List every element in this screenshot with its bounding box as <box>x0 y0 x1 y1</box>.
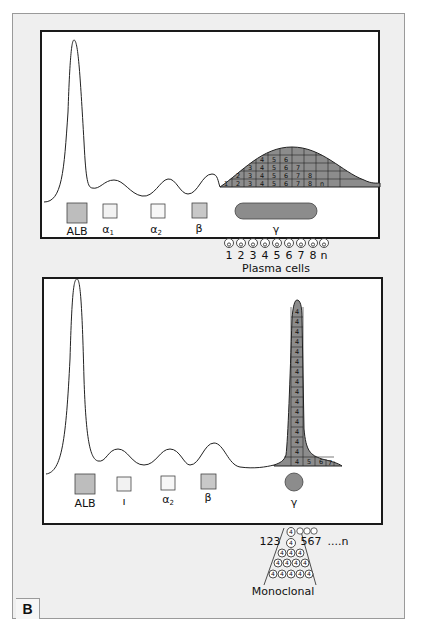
svg-text:7: 7 <box>328 459 332 467</box>
svg-text:4: 4 <box>295 408 299 416</box>
svg-text:1: 1 <box>224 180 228 188</box>
gamma-monoclonal-spike <box>274 300 342 466</box>
svg-text:4: 4 <box>295 318 299 326</box>
alb-label: ALB <box>74 497 95 510</box>
svg-text:4: 4 <box>295 378 299 386</box>
svg-text:4: 4 <box>295 308 299 316</box>
svg-text:4: 4 <box>295 418 299 426</box>
svg-text:4: 4 <box>295 428 299 436</box>
beta-band <box>192 203 207 218</box>
svg-text:6: 6 <box>284 180 288 188</box>
alpha2-band <box>151 204 165 218</box>
svg-text:4: 4 <box>295 338 299 346</box>
alpha2-label: α2 <box>162 493 174 507</box>
svg-text:7: 7 <box>296 180 300 188</box>
alpha1-label: α1 <box>102 223 114 237</box>
alpha1-band <box>103 204 117 218</box>
svg-text:3: 3 <box>248 172 252 180</box>
figure-panel-label: B <box>16 598 40 619</box>
alpha1-label: ı <box>122 495 125 508</box>
alpha2-band <box>161 476 175 490</box>
beta-band <box>201 474 216 489</box>
alb-band <box>67 203 87 223</box>
svg-text:6: 6 <box>284 172 288 180</box>
polyclonal-electrophoresis-panel: 1 2 3 4 5 6 7 8 n 2 3 4 5 6 7 8 3 4 5 6 … <box>40 30 380 239</box>
svg-text:4: 4 <box>295 328 299 336</box>
svg-text:3: 3 <box>248 164 252 172</box>
protein-curve <box>44 40 220 202</box>
gamma-label: γ <box>291 496 298 509</box>
alpha1-band <box>117 477 131 491</box>
svg-text:5: 5 <box>272 164 276 172</box>
svg-text:4: 4 <box>295 398 299 406</box>
svg-text:6: 6 <box>284 164 288 172</box>
svg-text:8: 8 <box>308 180 312 188</box>
alb-label: ALB <box>66 225 87 238</box>
svg-text:n: n <box>320 180 324 188</box>
polyclonal-trace: 1 2 3 4 5 6 7 8 n 2 3 4 5 6 7 8 3 4 5 6 … <box>42 32 382 241</box>
gamma-band <box>235 203 317 219</box>
svg-text:4: 4 <box>295 348 299 356</box>
alpha2-label: α2 <box>150 223 162 237</box>
beta-label: β <box>204 491 211 504</box>
svg-text:4: 4 <box>295 448 299 456</box>
alb-band <box>75 474 95 494</box>
svg-text:6: 6 <box>319 458 323 466</box>
svg-text:4: 4 <box>295 458 299 466</box>
svg-text:4: 4 <box>260 156 264 164</box>
svg-text:3: 3 <box>248 180 252 188</box>
svg-text:7: 7 <box>296 172 300 180</box>
svg-text:5: 5 <box>272 172 276 180</box>
monoclonal-electrophoresis-panel: 4 4 4 4 4 4 4 4 4 4 4 4 4 4 4 4 5 6 7 AL… <box>42 277 383 525</box>
protein-curve <box>46 279 274 474</box>
monoclonal-trace: 4 4 4 4 4 4 4 4 4 4 4 4 4 4 4 4 5 6 7 AL… <box>44 279 385 527</box>
beta-label: β <box>195 222 202 235</box>
svg-text:5: 5 <box>307 458 311 466</box>
svg-text:4: 4 <box>260 180 264 188</box>
svg-text:4: 4 <box>295 388 299 396</box>
svg-text:4: 4 <box>295 368 299 376</box>
gamma-label: γ <box>273 223 280 236</box>
svg-text:6: 6 <box>284 156 288 164</box>
svg-text:5: 5 <box>272 180 276 188</box>
svg-text:4: 4 <box>295 358 299 366</box>
svg-text:4: 4 <box>260 164 264 172</box>
svg-text:5: 5 <box>272 156 276 164</box>
gamma-band <box>285 473 303 491</box>
svg-text:4: 4 <box>260 172 264 180</box>
svg-text:7: 7 <box>296 164 300 172</box>
svg-text:4: 4 <box>295 438 299 446</box>
svg-text:2: 2 <box>236 172 240 180</box>
svg-text:2: 2 <box>236 180 240 188</box>
svg-text:8: 8 <box>308 172 312 180</box>
